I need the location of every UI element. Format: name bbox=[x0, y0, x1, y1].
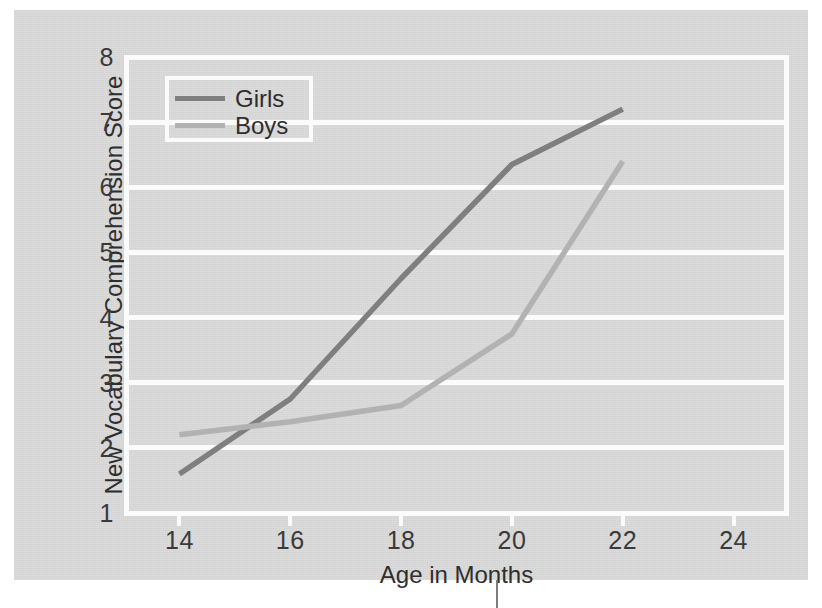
scan-edge-artifact bbox=[496, 580, 498, 608]
chart-legend: GirlsBoys bbox=[165, 76, 313, 142]
y-tick-label-8: 8 bbox=[74, 43, 114, 72]
x-axis-tick-labels: 141618202224 bbox=[124, 526, 789, 560]
x-tick-label-14: 14 bbox=[149, 526, 209, 555]
x-tick-label-18: 18 bbox=[371, 526, 431, 555]
x-tick-label-24: 24 bbox=[704, 526, 764, 555]
x-tick-label-20: 20 bbox=[482, 526, 542, 555]
series-line-boys bbox=[179, 161, 622, 435]
x-tick-mark-14 bbox=[177, 513, 181, 526]
legend-item-boys: Boys bbox=[175, 113, 288, 138]
y-tick-label-2: 2 bbox=[74, 433, 114, 462]
x-tick-mark-16 bbox=[288, 513, 292, 526]
series-line-girls bbox=[179, 109, 622, 474]
x-tick-mark-18 bbox=[399, 513, 403, 526]
y-tick-label-3: 3 bbox=[74, 368, 114, 397]
scanned-chart-panel: New Vocabulary Comprehension Score 87654… bbox=[14, 10, 808, 580]
x-tick-mark-20 bbox=[510, 513, 514, 526]
x-tick-label-22: 22 bbox=[593, 526, 653, 555]
legend-label-boys: Boys bbox=[235, 114, 288, 138]
y-tick-label-1: 1 bbox=[74, 499, 114, 528]
y-tick-label-6: 6 bbox=[74, 173, 114, 202]
x-tick-label-16: 16 bbox=[260, 526, 320, 555]
y-tick-label-5: 5 bbox=[74, 238, 114, 267]
x-tick-mark-24 bbox=[732, 513, 736, 526]
legend-swatch-girls bbox=[175, 96, 225, 101]
legend-swatch-boys bbox=[175, 123, 225, 128]
y-axis-tick-labels: 87654321 bbox=[62, 57, 114, 513]
chart-figure: New Vocabulary Comprehension Score 87654… bbox=[0, 0, 822, 608]
y-tick-label-4: 4 bbox=[74, 303, 114, 332]
legend-item-girls: Girls bbox=[175, 86, 284, 111]
legend-label-girls: Girls bbox=[235, 87, 284, 111]
x-tick-mark-22 bbox=[621, 513, 625, 526]
y-tick-label-7: 7 bbox=[74, 108, 114, 137]
x-axis-title: Age in Months bbox=[124, 561, 789, 589]
